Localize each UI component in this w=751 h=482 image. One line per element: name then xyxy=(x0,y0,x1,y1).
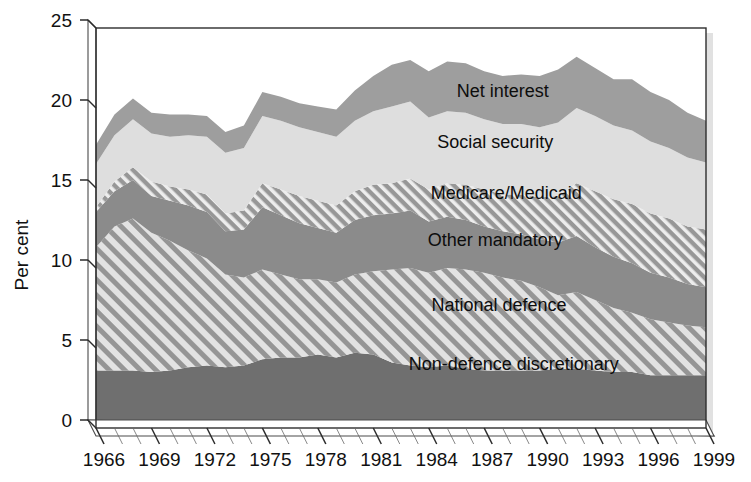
x-tick-label: 1984 xyxy=(416,449,459,470)
x-tick-label: 1990 xyxy=(526,449,568,470)
y-axis-title: Per cent xyxy=(11,219,32,290)
series-label-other-mandatory: Other mandatory xyxy=(428,230,563,250)
x-tick-label: 1972 xyxy=(194,449,236,470)
y-tick-label: 25 xyxy=(51,10,72,31)
x-tick-label: 1999 xyxy=(693,449,735,470)
x-tick-label: 1975 xyxy=(249,449,291,470)
y-tick-label: 5 xyxy=(61,330,72,351)
x-tick-label: 1978 xyxy=(305,449,347,470)
x-tick-label: 1969 xyxy=(138,449,180,470)
x-tick-label: 1993 xyxy=(582,449,624,470)
series-label-medicare-medicaid: Medicare/Medicaid xyxy=(431,183,582,203)
x-tick-label: 1981 xyxy=(360,449,402,470)
x-tick-label: 1996 xyxy=(637,449,679,470)
series-label-social-security: Social security xyxy=(437,132,553,152)
y-tick-label: 15 xyxy=(51,170,72,191)
series-label-non-defence-discretionary: Non-defence discretionary xyxy=(409,354,619,374)
x-tick-label: 1966 xyxy=(83,449,125,470)
y-tick-label: 0 xyxy=(61,410,72,431)
series-label-national-defence: National defence xyxy=(431,295,566,315)
chart-canvas: 0510152025 19661969197219751978198119841… xyxy=(0,0,751,482)
series-label-net-interest: Net interest xyxy=(457,81,549,101)
y-tick-label: 20 xyxy=(51,90,72,111)
axis-wall-left xyxy=(88,20,96,428)
x-tick-label: 1987 xyxy=(471,449,513,470)
stacked-area-chart: 0510152025 19661969197219751978198119841… xyxy=(0,0,751,482)
y-tick-label: 10 xyxy=(51,250,72,271)
